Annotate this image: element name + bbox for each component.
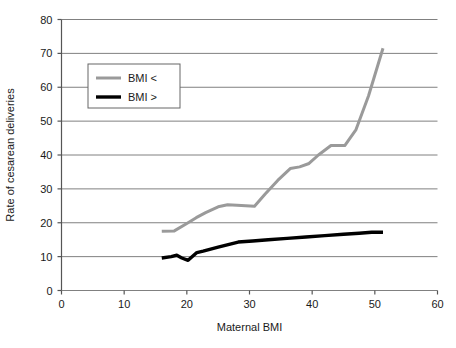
legend-label-1: BMI > xyxy=(128,91,157,103)
y-axis-tick-labels: 01020304050607080 xyxy=(40,14,52,297)
y-tick-label-10: 10 xyxy=(40,251,52,263)
x-tick-label-30: 30 xyxy=(243,298,255,310)
y-tick-label-70: 70 xyxy=(40,47,52,59)
legend-label-0: BMI < xyxy=(128,72,157,84)
chart-legend: BMI <BMI > xyxy=(88,64,180,108)
y-tick-label-80: 80 xyxy=(40,14,52,26)
y-tick-label-40: 40 xyxy=(40,149,52,161)
x-tick-label-20: 20 xyxy=(181,298,193,310)
x-axis-tick-labels: 0102030405060 xyxy=(58,298,443,310)
x-tick-label-0: 0 xyxy=(58,298,64,310)
y-tick-label-0: 0 xyxy=(46,285,52,297)
line-chart: 01020304050607080 0102030405060 BMI <BMI… xyxy=(0,0,456,348)
x-tick-label-40: 40 xyxy=(306,298,318,310)
x-tick-label-10: 10 xyxy=(118,298,130,310)
y-tick-label-30: 30 xyxy=(40,183,52,195)
data-series-group xyxy=(162,48,383,260)
chart-figure: 01020304050607080 0102030405060 BMI <BMI… xyxy=(0,0,456,348)
y-axis-title: Rate of cesarean deliveries xyxy=(4,88,16,222)
y-tick-label-50: 50 xyxy=(40,115,52,127)
x-tick-label-50: 50 xyxy=(369,298,381,310)
series-line-0 xyxy=(162,48,383,231)
y-tick-label-60: 60 xyxy=(40,81,52,93)
x-tick-label-60: 60 xyxy=(431,298,443,310)
x-axis-title: Maternal BMI xyxy=(217,321,282,333)
y-tick-label-20: 20 xyxy=(40,217,52,229)
